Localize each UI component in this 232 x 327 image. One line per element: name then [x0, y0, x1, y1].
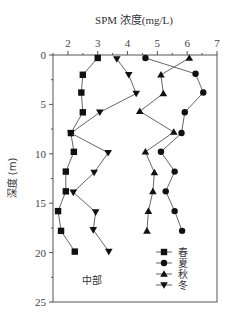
- circle-marker: [178, 130, 184, 136]
- chart-title: SPM 浓度(mg/L): [95, 13, 173, 27]
- x-tick-label: 5: [155, 37, 161, 49]
- y-axis-ticks: 0510152025: [35, 49, 53, 308]
- triangle-down-marker: [105, 249, 113, 256]
- square-marker: [63, 168, 69, 174]
- series-triangle-down: [67, 56, 140, 255]
- series-layer: [55, 54, 207, 255]
- legend-item: 秋: [156, 268, 188, 280]
- x-tick-label: 2: [65, 37, 71, 49]
- series-line: [140, 58, 190, 231]
- series-line: [71, 59, 136, 252]
- legend-triangle-up-icon: [160, 270, 168, 277]
- y-tick-label: 0: [41, 49, 47, 61]
- circle-marker: [192, 71, 198, 77]
- triangle-up-marker: [170, 128, 178, 135]
- circle-marker: [182, 109, 188, 115]
- legend-label: 夏: [178, 258, 188, 269]
- legend-square-icon: [161, 249, 167, 255]
- legend-label: 冬: [178, 279, 188, 291]
- circle-marker: [158, 149, 164, 155]
- x-axis-ticks: 234567: [53, 37, 220, 55]
- square-marker: [58, 228, 64, 234]
- triangle-down-marker: [125, 72, 133, 79]
- y-tick-label: 5: [41, 98, 47, 110]
- triangle-up-marker: [157, 71, 165, 78]
- triangle-down-marker: [89, 227, 97, 234]
- square-marker: [80, 72, 86, 78]
- series-circle: [142, 55, 206, 234]
- circle-marker: [179, 228, 185, 234]
- square-marker: [71, 149, 77, 155]
- y-axis-label: 深度 (m): [6, 158, 18, 199]
- triangle-up-marker: [136, 108, 144, 115]
- triangle-down-marker: [104, 150, 112, 157]
- triangle-down-marker: [132, 91, 140, 98]
- series-line: [58, 58, 98, 252]
- y-tick-label: 20: [35, 247, 47, 259]
- triangle-down-marker: [96, 110, 104, 117]
- triangle-up-marker: [151, 169, 159, 176]
- circle-marker: [171, 208, 177, 214]
- square-marker: [72, 248, 78, 254]
- legend-item: 春: [156, 247, 188, 258]
- legend-item: 夏: [156, 258, 188, 269]
- triangle-up-marker: [160, 90, 168, 97]
- triangle-up-marker: [142, 148, 150, 155]
- x-tick-label: 3: [95, 37, 101, 49]
- triangle-down-marker: [92, 209, 100, 216]
- x-tick-label: 7: [214, 37, 220, 49]
- triangle-up-marker: [143, 227, 151, 234]
- spm-depth-chart: SPM 浓度(mg/L) 深度 (m) 234567 0510152025 中部…: [0, 0, 232, 327]
- series-line: [145, 58, 203, 231]
- square-marker: [63, 188, 69, 194]
- circle-marker: [200, 89, 206, 95]
- legend-circle-icon: [161, 260, 167, 266]
- circle-marker: [163, 188, 169, 194]
- x-tick-label: 4: [125, 37, 131, 49]
- series-triangle-up: [136, 54, 193, 234]
- legend-triangle-down-icon: [160, 282, 168, 289]
- region-annotation: 中部: [82, 274, 102, 286]
- triangle-up-marker: [149, 188, 157, 195]
- square-marker: [55, 208, 61, 214]
- legend-label: 春: [178, 247, 188, 258]
- square-marker: [78, 89, 84, 95]
- y-tick-label: 25: [35, 296, 47, 308]
- circle-marker: [142, 55, 148, 61]
- triangle-down-marker: [113, 56, 121, 63]
- y-tick-label: 10: [35, 148, 47, 160]
- triangle-up-marker: [145, 207, 153, 214]
- legend-item: 冬: [156, 279, 188, 291]
- y-tick-label: 15: [35, 197, 47, 209]
- square-marker: [95, 55, 101, 61]
- legend-label: 秋: [178, 268, 188, 280]
- x-tick-label: 6: [184, 37, 190, 49]
- circle-marker: [171, 168, 177, 174]
- square-marker: [80, 109, 86, 115]
- legend: 春夏秋冬: [156, 247, 188, 291]
